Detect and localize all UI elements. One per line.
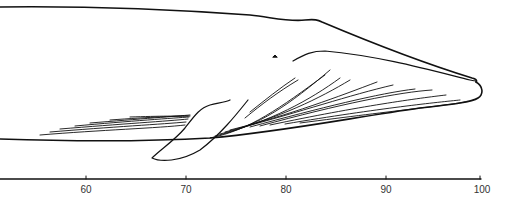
whale-illustration [0, 0, 519, 206]
whale-eye [273, 55, 277, 57]
throat-grooves [40, 70, 465, 138]
ruler-label-90: 90 [380, 184, 391, 195]
ruler-label-70: 70 [180, 184, 191, 195]
whale-belly-outline [0, 82, 482, 141]
ruler-label-60: 60 [80, 184, 91, 195]
whale-mouth-line [293, 51, 477, 81]
ruler-label-100: 100 [474, 184, 491, 195]
whale-back-outline [0, 7, 476, 82]
ruler-label-80: 80 [280, 184, 291, 195]
